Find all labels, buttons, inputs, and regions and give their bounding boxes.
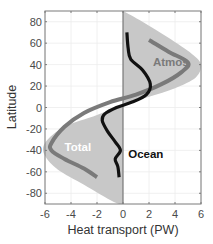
annotation-total: Total bbox=[65, 141, 92, 153]
y-tick-label: 20 bbox=[30, 80, 42, 92]
annotation-atmos: Atmos bbox=[153, 56, 189, 68]
y-tick-label: 80 bbox=[30, 16, 42, 28]
y-tick-label: -20 bbox=[26, 123, 42, 135]
y-tick-label: 40 bbox=[30, 59, 42, 71]
x-axis-label: Heat transport (PW) bbox=[67, 223, 178, 237]
x-tick-labels: -6-4-20246 bbox=[40, 208, 204, 220]
annotation-ocean: Ocean bbox=[128, 148, 163, 160]
x-tick-label: 0 bbox=[120, 208, 126, 220]
y-tick-label: -60 bbox=[26, 166, 42, 178]
y-tick-label: 0 bbox=[36, 102, 42, 114]
x-tick-label: -4 bbox=[66, 208, 76, 220]
x-tick-label: 6 bbox=[198, 208, 204, 220]
x-tick-label: -2 bbox=[92, 208, 102, 220]
x-tick-label: -6 bbox=[40, 208, 50, 220]
heat-transport-chart: 806040200-20-40-60-80 -6-4-20246 AtmosTo… bbox=[0, 0, 213, 244]
y-tick-label: 60 bbox=[30, 37, 42, 49]
y-tick-labels: 806040200-20-40-60-80 bbox=[26, 16, 42, 200]
y-tick-label: -80 bbox=[26, 187, 42, 199]
y-axis-label: Latitude bbox=[5, 85, 19, 130]
y-tick-label: -40 bbox=[26, 144, 42, 156]
x-tick-label: 4 bbox=[172, 208, 178, 220]
x-tick-label: 2 bbox=[146, 208, 152, 220]
